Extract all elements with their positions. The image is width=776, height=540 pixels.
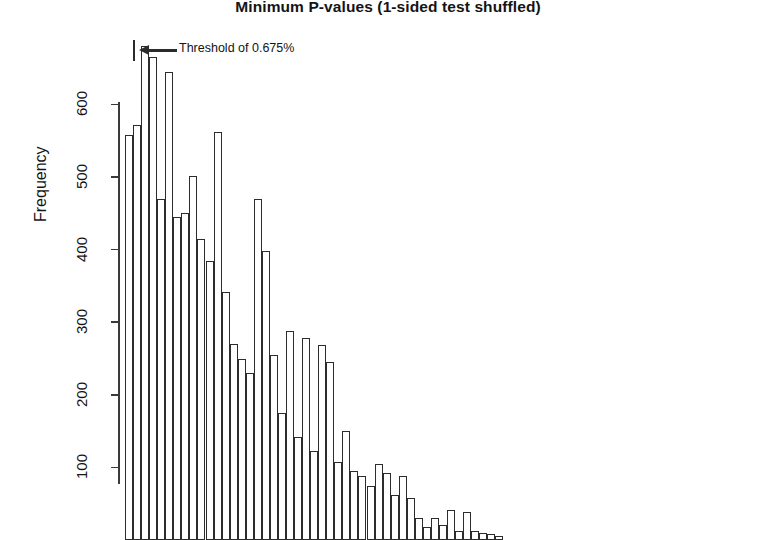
- threshold-label: Threshold of 0.675%: [179, 41, 294, 55]
- y-tick-200: [111, 394, 118, 396]
- bar: [487, 534, 495, 540]
- bar: [270, 355, 278, 540]
- bar: [278, 413, 286, 540]
- bar: [197, 239, 205, 540]
- y-tick-600: [111, 104, 118, 106]
- y-tick-label-300: 300: [73, 299, 90, 345]
- y-tick-100: [111, 467, 118, 469]
- bar: [173, 217, 181, 540]
- y-axis-label: Frequency: [32, 42, 54, 222]
- bar: [375, 464, 383, 540]
- bar: [358, 476, 366, 540]
- bar: [149, 57, 157, 540]
- bar: [222, 292, 230, 540]
- bar: [125, 135, 133, 540]
- y-tick-label-600: 600: [73, 81, 90, 127]
- bar: [165, 72, 173, 540]
- bar: [262, 251, 270, 540]
- bar: [246, 373, 254, 540]
- bar: [230, 344, 238, 540]
- bar: [463, 512, 471, 540]
- bar: [447, 510, 455, 540]
- plot-area: [118, 0, 776, 484]
- bar: [302, 338, 310, 540]
- bar: [367, 486, 375, 540]
- bar: [294, 437, 302, 540]
- threshold-marker-line: [133, 40, 135, 61]
- bar: [334, 462, 342, 540]
- bar: [238, 359, 246, 540]
- y-tick-label-400: 400: [73, 226, 90, 272]
- bar: [407, 498, 415, 540]
- bar: [431, 518, 439, 540]
- bar: [350, 471, 358, 540]
- y-tick-label-200: 200: [73, 371, 90, 417]
- bar: [342, 431, 350, 540]
- y-tick-300: [111, 321, 118, 323]
- bar: [254, 199, 262, 540]
- bar: [326, 362, 334, 540]
- bar: [286, 331, 294, 540]
- arrow-left-icon: [139, 45, 177, 56]
- bar: [455, 531, 463, 540]
- bar: [423, 527, 431, 540]
- bar: [471, 531, 479, 540]
- bar: [383, 473, 391, 540]
- bar: [214, 132, 222, 540]
- bar: [141, 46, 149, 540]
- bar: [189, 176, 197, 540]
- y-tick-label-100: 100: [73, 444, 90, 490]
- bar: [439, 525, 447, 540]
- y-tick-400: [111, 249, 118, 251]
- bar: [157, 199, 165, 540]
- bar: [415, 518, 423, 540]
- bar: [181, 213, 189, 540]
- bar: [391, 495, 399, 540]
- bar: [318, 345, 326, 540]
- bar: [206, 261, 214, 540]
- bar: [479, 533, 487, 540]
- bar: [310, 451, 318, 540]
- y-tick-label-500: 500: [73, 154, 90, 200]
- bar: [399, 476, 407, 540]
- bar: [495, 536, 503, 540]
- bar: [133, 125, 141, 540]
- y-tick-500: [111, 176, 118, 178]
